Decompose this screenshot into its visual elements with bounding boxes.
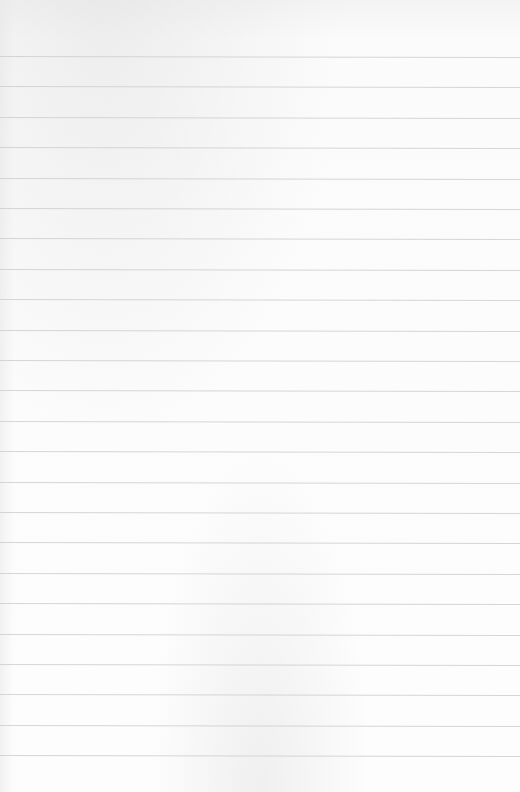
ruled-line [0, 421, 520, 423]
ruled-line [0, 238, 520, 240]
ruled-line [0, 56, 520, 58]
ruled-line [0, 755, 520, 757]
ruled-line [0, 573, 520, 575]
ruled-line [0, 269, 520, 271]
lined-paper-sheet [0, 0, 520, 792]
ruled-line [0, 542, 520, 544]
ruled-line [0, 86, 520, 88]
ruled-line [0, 147, 520, 149]
ruled-line [0, 482, 520, 484]
ruled-line [0, 664, 520, 666]
ruled-line [0, 634, 520, 636]
ruled-line [0, 360, 520, 362]
ruled-line [0, 512, 520, 514]
ruled-line [0, 208, 520, 210]
ruled-line [0, 694, 520, 696]
ruled-line [0, 603, 520, 605]
ruled-line [0, 299, 520, 301]
ruled-line [0, 178, 520, 180]
ruled-line [0, 725, 520, 727]
ruled-line [0, 390, 520, 392]
ruled-line [0, 117, 520, 119]
ruled-line [0, 451, 520, 453]
ruled-line [0, 330, 520, 332]
